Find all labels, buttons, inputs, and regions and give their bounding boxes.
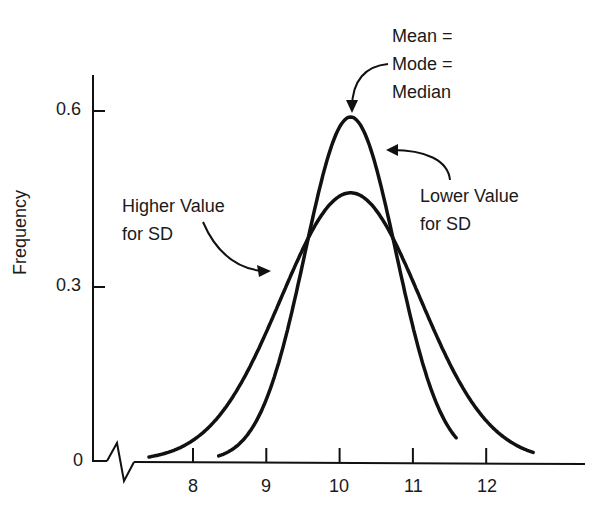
annotation-line: Mean = [392, 22, 453, 50]
x-axis [134, 462, 585, 464]
arrowhead-icon [257, 265, 271, 277]
x-ticks [193, 448, 486, 463]
annotation-line: Higher Value [122, 192, 225, 220]
arrow-lower-sd [392, 150, 450, 180]
axes [93, 75, 585, 481]
annotation-line: Median [392, 78, 453, 106]
annotation-line: for SD [122, 220, 225, 248]
y-tick-label: 0.3 [56, 275, 81, 296]
y-axis-label: Frequency [10, 190, 31, 275]
annotation-line: for SD [420, 210, 519, 238]
arrowhead-icon [346, 100, 358, 113]
x-tick-label: 9 [261, 476, 271, 497]
annotation-lower-sd: Lower Value for SD [420, 182, 519, 238]
lower-value-for-sd-curve [219, 117, 456, 456]
x-tick-label: 10 [329, 476, 349, 497]
arrow-mean-mode-median [352, 64, 388, 108]
y-axis [93, 75, 107, 461]
x-tick-label: 8 [188, 476, 198, 497]
annotation-line: Mode = [392, 50, 453, 78]
axis-break [107, 443, 134, 481]
x-tick-label: 12 [477, 476, 497, 497]
y-tick-label: 0.6 [56, 99, 81, 120]
y-tick-label: 0 [73, 450, 83, 471]
normal-distribution-chart [0, 0, 606, 522]
x-tick-label: 11 [404, 476, 423, 497]
annotation-line: Lower Value [420, 182, 519, 210]
annotation-higher-sd: Higher Value for SD [122, 192, 225, 248]
arrowhead-icon [386, 144, 398, 156]
annotation-mean-mode-median: Mean = Mode = Median [392, 22, 453, 106]
curves [149, 117, 533, 457]
